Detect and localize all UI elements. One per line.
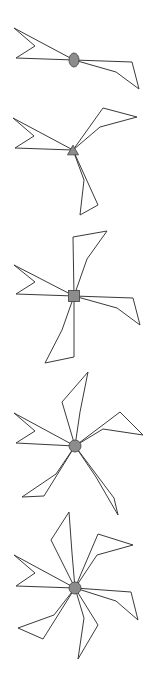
- figure-1-hub-ellipse-marker: [69, 53, 79, 67]
- pinwheel-svg-canvas: [0, 0, 162, 679]
- figure-3-hub-square-marker: [69, 291, 80, 302]
- pinwheel-figure-column: [0, 0, 162, 679]
- figure-4-hub-circle-marker: [69, 440, 81, 452]
- canvas-background: [0, 0, 162, 679]
- figure-5-hub-circle-marker: [69, 582, 81, 594]
